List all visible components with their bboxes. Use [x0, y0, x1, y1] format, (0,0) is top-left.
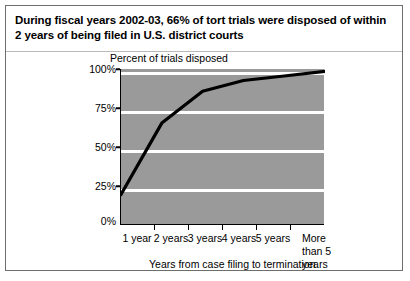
- xtick-mark-4: [256, 225, 257, 230]
- chart-figure: During fiscal years 2002-03, 66% of tort…: [5, 5, 403, 271]
- data-line: [121, 71, 325, 194]
- chart-title: During fiscal years 2002-03, 66% of tort…: [15, 13, 393, 42]
- ytick-mark-100: [116, 68, 120, 70]
- xtick-mark-5: [290, 225, 291, 230]
- xtick-label-1-year: 1 year: [122, 232, 151, 244]
- plot-area: [120, 69, 324, 225]
- ytick-label-25: 25%: [95, 180, 116, 192]
- xtick-mark-1: [154, 225, 155, 230]
- xtick-label-4-years: 4 years: [222, 232, 256, 244]
- x-axis-label: Years from case filing to termination: [149, 258, 316, 270]
- ytick-label-100: 100%: [89, 63, 116, 75]
- y-axis-label: Percent of trials disposed: [110, 52, 228, 64]
- xtick-mark-3: [222, 225, 223, 230]
- chart-svg: [121, 69, 325, 225]
- y-axis-ticks: 100% 75% 50% 25% 0%: [78, 6, 116, 281]
- ytick-mark-25: [116, 185, 120, 187]
- xtick-mark-2: [188, 225, 189, 230]
- ytick-mark-50: [116, 146, 120, 148]
- ytick-label-0: 0%: [101, 215, 116, 227]
- xtick-label-5-years: 5 years: [256, 232, 290, 244]
- ytick-label-50: 50%: [95, 141, 116, 153]
- xtick-label-3-years: 3 years: [188, 232, 222, 244]
- xtick-label-2-years: 2 years: [154, 232, 188, 244]
- ytick-mark-75: [116, 107, 120, 109]
- ytick-label-75: 75%: [95, 102, 116, 114]
- gridlines: [121, 74, 325, 191]
